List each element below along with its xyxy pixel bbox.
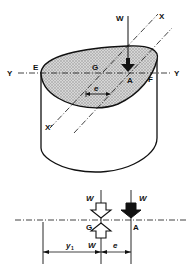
label-a-lower: A bbox=[133, 223, 139, 232]
label-f-point: F bbox=[148, 75, 153, 84]
cylinder-figure: W X X' Y Y E F G A e bbox=[7, 12, 180, 172]
label-w-hollow-up: W bbox=[88, 241, 97, 250]
label-w-top: W bbox=[116, 14, 124, 23]
eccentric-load-diagram: W X X' Y Y E F G A e W W W G bbox=[0, 0, 192, 274]
hollow-up-arrow-icon bbox=[91, 223, 111, 238]
section-face bbox=[41, 46, 158, 108]
label-w-solid: W bbox=[139, 194, 148, 203]
label-e-eccentricity: e bbox=[94, 84, 99, 93]
label-e-point: E bbox=[33, 63, 39, 72]
label-g-lower: G bbox=[86, 223, 92, 232]
label-y-right: Y bbox=[174, 69, 180, 78]
solid-down-arrow-icon bbox=[121, 203, 141, 218]
label-x-bottom: X' bbox=[45, 123, 52, 132]
label-x-top: X bbox=[159, 12, 165, 21]
label-e-lower: e bbox=[113, 241, 118, 250]
label-w-hollow-down: W bbox=[86, 194, 95, 203]
hollow-down-arrow-icon bbox=[91, 203, 111, 218]
label-g-centroid: G bbox=[92, 63, 98, 72]
label-a-point: A bbox=[127, 76, 133, 85]
equivalent-load-figure: W W W G A y 1 e bbox=[15, 190, 186, 264]
label-y-left: Y bbox=[7, 69, 13, 78]
label-y1-subscript: 1 bbox=[71, 245, 74, 251]
